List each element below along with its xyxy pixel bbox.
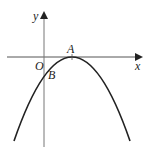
origin-label: O	[35, 59, 44, 73]
y-axis-label: y	[32, 9, 39, 23]
x-axis-label: x	[134, 59, 141, 73]
parabola-diagram: y x O A B	[0, 0, 153, 159]
point-a-label: A	[66, 42, 75, 56]
point-b-label: B	[48, 68, 56, 82]
parabola-curve	[14, 57, 130, 141]
